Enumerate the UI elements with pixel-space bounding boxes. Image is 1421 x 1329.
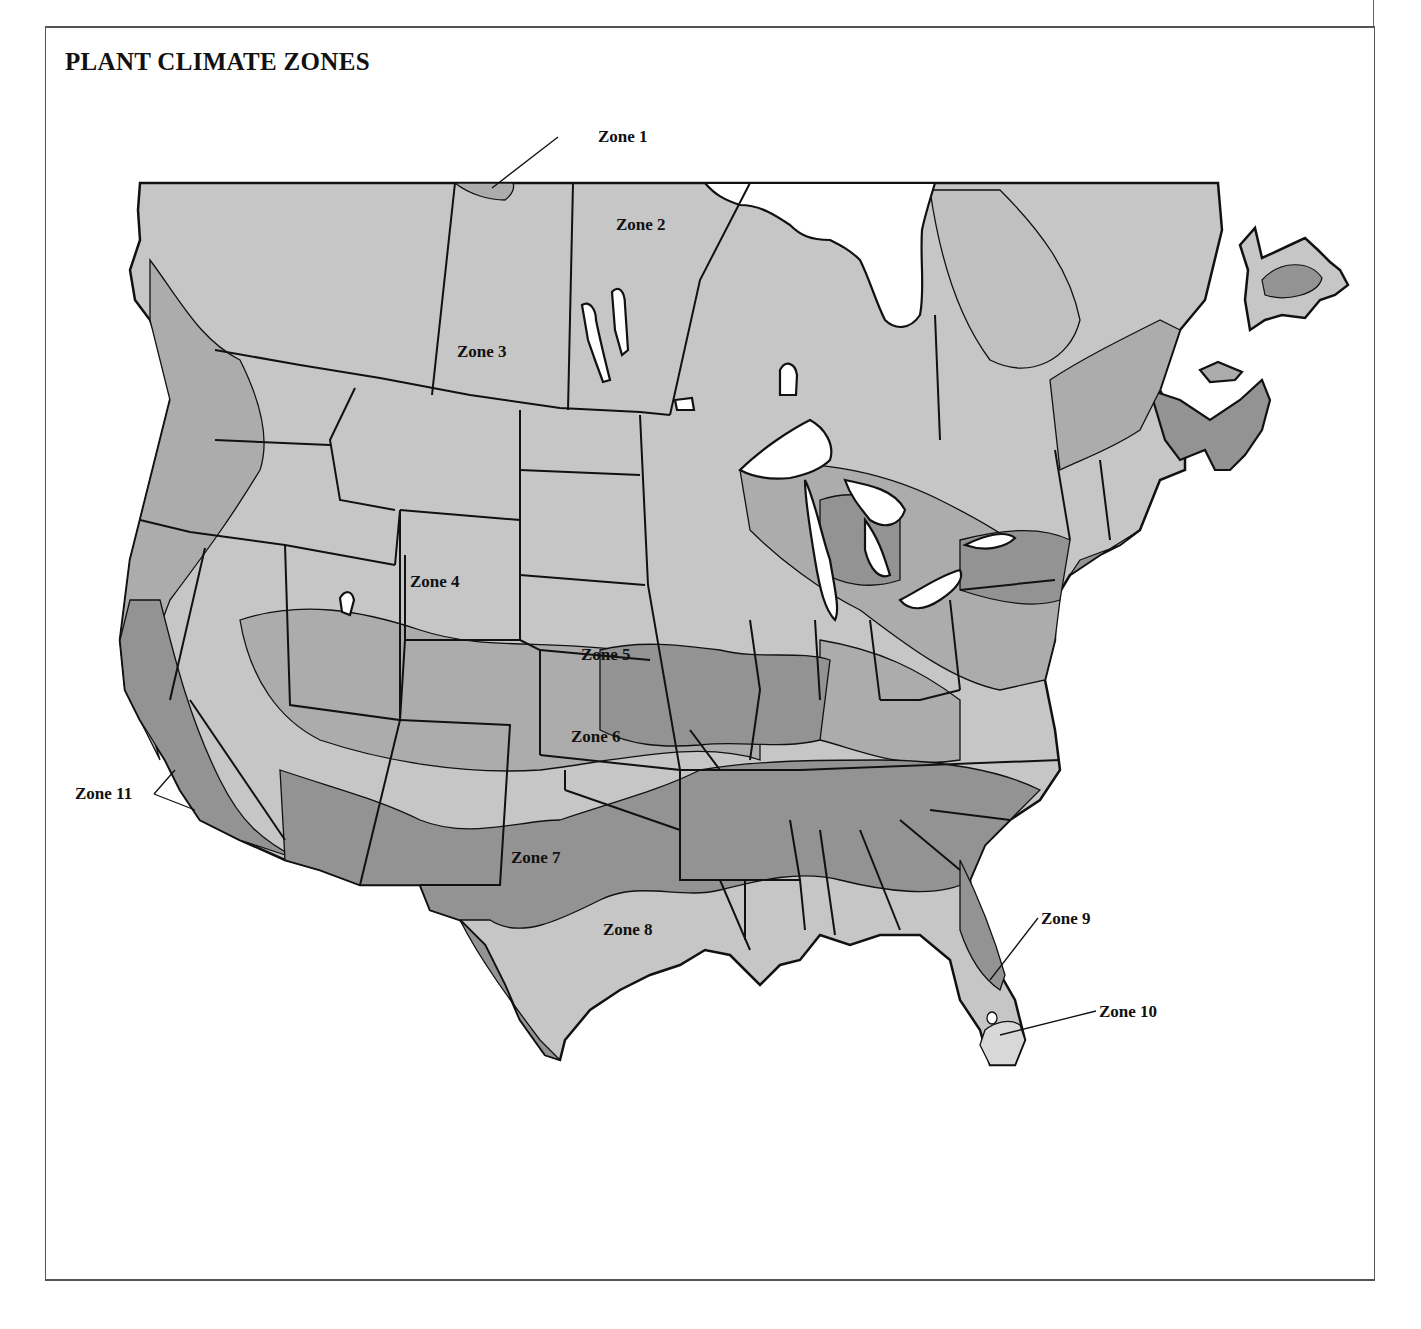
zone-6-label: Zone 6 [571, 727, 621, 746]
zone-11-label: Zone 11 [75, 784, 132, 803]
zone-5-label: Zone 5 [581, 645, 631, 664]
climate-zone-map: Zone 1 Zone 2 Zone 3 Zone 4 Zone 5 Zone … [0, 0, 1421, 1329]
zone-10-region [980, 1021, 1025, 1065]
zone-1-label: Zone 1 [598, 127, 648, 146]
zone-10-label: Zone 10 [1099, 1002, 1157, 1021]
zone-7-label: Zone 7 [511, 848, 561, 867]
zone-9-label: Zone 9 [1041, 909, 1091, 928]
zone-3-label: Zone 3 [457, 342, 507, 361]
zone-4-label: Zone 4 [410, 572, 460, 591]
zone-8-label: Zone 8 [603, 920, 653, 939]
zone-2-label: Zone 2 [616, 215, 666, 234]
